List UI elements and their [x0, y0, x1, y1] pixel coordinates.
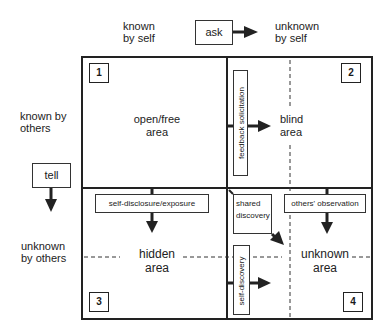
hidden-area-line1: hidden: [127, 247, 187, 261]
open-area-line2: area: [122, 126, 192, 139]
quadrant-3-number: 3: [89, 292, 109, 312]
unknown-area-label: unknown area: [290, 247, 360, 275]
known-by-others-label: known by others: [20, 110, 66, 134]
hidden-area-label: hidden area: [127, 247, 187, 275]
self-discovery-label: self-discovery: [235, 246, 249, 316]
shared-discovery-line1: shared: [236, 198, 269, 210]
unknown-by-others-label: unknown by others: [21, 240, 66, 264]
ask-box: ask: [195, 20, 233, 45]
self-discovery-box: self-discovery: [233, 245, 250, 315]
tell-label: tell: [44, 169, 58, 181]
feedback-solicitation-box: feedback solicitation: [233, 70, 248, 176]
self-disclosure-box: self-disclosure/exposure: [95, 194, 209, 213]
shared-discovery-arrow: [270, 231, 284, 245]
unknown-area-line2: area: [290, 261, 360, 275]
blind-area-line2: area: [280, 126, 320, 139]
ask-arrow: [244, 26, 258, 38]
unknown-area-line1: unknown: [290, 247, 360, 261]
unknown-by-self-label: unknown by self: [275, 20, 319, 44]
feedback-arrow: [258, 120, 271, 132]
blind-area-line1: blind: [280, 113, 320, 126]
self-disclosure-arrow: [146, 221, 158, 233]
open-area-label: open/free area: [122, 113, 192, 139]
others-observation-box: others' observation: [284, 194, 366, 213]
self-disclosure-label: self-disclosure/exposure: [109, 199, 195, 208]
quadrant-4-number: 4: [343, 292, 363, 312]
shared-discovery-box: shared discovery: [233, 194, 272, 234]
quadrant-1-number: 1: [89, 63, 109, 83]
shared-discovery-line2: discovery: [236, 210, 269, 222]
feedback-solicitation-label: feedback solicitation: [236, 70, 248, 176]
tell-box: tell: [32, 163, 71, 188]
others-observation-label: others' observation: [291, 199, 358, 208]
ask-label: ask: [205, 26, 222, 38]
hidden-area-line2: area: [127, 261, 187, 275]
quadrant-2-number: 2: [341, 63, 361, 83]
self-discovery-arrow: [258, 277, 271, 289]
open-area-line1: open/free: [122, 113, 192, 126]
tell-arrow: [45, 199, 57, 212]
blind-area-label: blind area: [280, 113, 320, 139]
known-by-self-label: known by self: [123, 20, 155, 44]
others-observation-arrow: [321, 222, 333, 234]
